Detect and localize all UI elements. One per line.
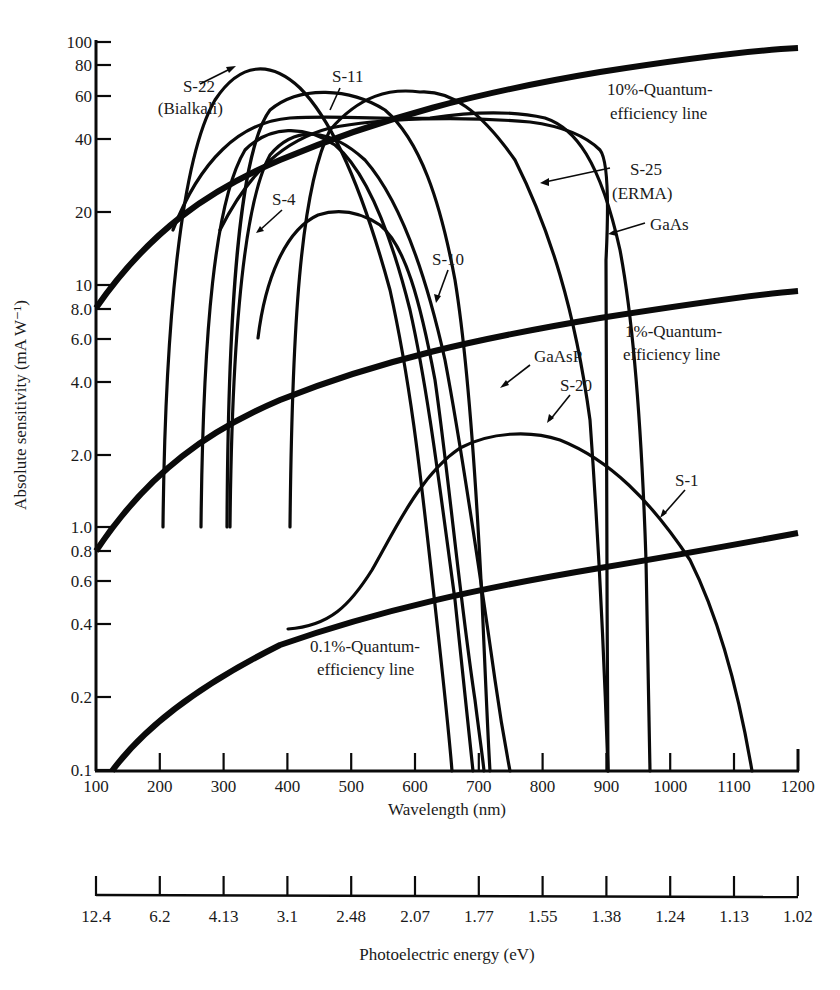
y-tick-label: 0.2 — [71, 688, 92, 707]
x-tick-label: 200 — [147, 777, 173, 796]
y-tick-label: 0.4 — [71, 615, 93, 634]
energy-tick-label: 6.2 — [149, 907, 170, 926]
x-tick-label: 300 — [211, 777, 237, 796]
y-tick-label: 20 — [75, 203, 92, 222]
energy-tick-label: 12.4 — [81, 907, 111, 926]
quantum-efficiency-lines — [96, 48, 798, 771]
y-tick-label: 40 — [75, 130, 92, 149]
label-qe01: 0.1%-Quantum- — [310, 637, 420, 656]
label-s4: S-4 — [272, 190, 296, 209]
label-qe1-sub: efficiency line — [623, 345, 720, 364]
x-tick-label: 800 — [530, 777, 556, 796]
y-tick-label: 1.0 — [71, 518, 92, 537]
label-gaasp: GaAsP — [534, 347, 582, 366]
y-tick-label: 0.8 — [71, 542, 92, 561]
y-tick-label: 6.0 — [71, 330, 92, 349]
y-axis-ticks: 10080604020108.06.04.02.01.00.80.60.40.2… — [67, 33, 112, 780]
label-qe01-sub: efficiency line — [317, 660, 414, 679]
label-qe1: 1%-Quantum- — [625, 322, 723, 341]
energy-tick-label: 1.24 — [655, 907, 685, 926]
energy-tick-label: 3.1 — [277, 907, 298, 926]
x-tick-label: 1100 — [717, 777, 750, 796]
energy-tick-label: 4.13 — [209, 907, 239, 926]
x-axis-ticks: 100200300400500600700800900100011001200 — [83, 753, 815, 796]
label-s20: S-20 — [560, 376, 592, 395]
y-tick-label: 100 — [67, 33, 93, 52]
x-tick-label: 600 — [402, 777, 428, 796]
energy-tick-label: 1.02 — [783, 907, 813, 926]
energy-tick-label: 2.07 — [400, 907, 430, 926]
x-axis-title: Wavelength (nm) — [388, 800, 506, 819]
y-tick-label: 8.0 — [71, 300, 92, 319]
y-tick-label: 2.0 — [71, 446, 92, 465]
x-tick-label: 400 — [275, 777, 301, 796]
y-tick-label: 0.6 — [71, 572, 92, 591]
x-tick-label: 500 — [338, 777, 364, 796]
energy-tick-label: 1.13 — [719, 907, 749, 926]
label-qe10: 10%-Quantum- — [607, 80, 713, 99]
y-axis-title: Absolute sensitivity (mA W⁻¹) — [11, 300, 30, 510]
energy-axis-title: Photoelectric energy (eV) — [359, 945, 534, 964]
energy-tick-label: 1.38 — [592, 907, 622, 926]
x-tick-label: 100 — [83, 777, 109, 796]
y-tick-label: 4.0 — [71, 373, 92, 392]
label-s25-sub: (ERMA) — [612, 184, 672, 203]
energy-axis: 12.46.24.133.12.482.071.771.551.381.241.… — [81, 876, 813, 926]
energy-tick-label: 2.48 — [336, 907, 366, 926]
label-qe10-sub: efficiency line — [610, 104, 707, 123]
label-s25: S-25 — [630, 160, 662, 179]
y-tick-label: 80 — [75, 56, 92, 75]
curve-annotations: S-22 (Bialkali) S-11 S-4 S-10 S-25 (ERMA… — [158, 66, 723, 679]
photocathode-sensitivity-chart: Absolute sensitivity (mA W⁻¹) 1008060402… — [0, 0, 840, 990]
label-s22: S-22 — [183, 77, 215, 96]
x-tick-label: 900 — [594, 777, 620, 796]
label-s10: S-10 — [432, 250, 464, 269]
y-tick-label: 60 — [75, 87, 92, 106]
energy-tick-label: 1.77 — [464, 907, 494, 926]
y-tick-label: 10 — [75, 276, 92, 295]
label-s22-sub: (Bialkali) — [158, 99, 223, 118]
label-gaas: GaAs — [650, 215, 689, 234]
energy-tick-label: 1.55 — [528, 907, 558, 926]
label-s11: S-11 — [332, 67, 364, 86]
plot-axes — [95, 40, 799, 771]
x-tick-label: 1200 — [781, 777, 815, 796]
label-s1: S-1 — [675, 471, 699, 490]
x-tick-label: 700 — [466, 777, 492, 796]
x-tick-label: 1000 — [653, 777, 687, 796]
